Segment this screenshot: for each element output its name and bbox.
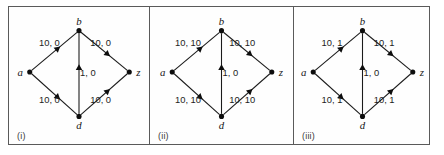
flow-network-figure: 10, 010, 010, 010, 01, 0abzd (i) 10, 101…: [0, 0, 444, 155]
panel-iii-caption: (iii): [302, 131, 315, 141]
node-dot: [170, 69, 175, 74]
edge-label-d-z: 10, 1: [374, 95, 395, 105]
node-d: d: [219, 114, 225, 131]
panel-ii: 10, 1010, 1010, 1010, 101, 0abzd (ii): [149, 7, 293, 144]
node-label-d: d: [360, 119, 366, 131]
edge-label-a-b: 10, 10: [175, 38, 201, 48]
node-dot: [360, 114, 365, 119]
node-a: a: [301, 66, 316, 78]
node-b: b: [219, 15, 225, 33]
node-dot: [410, 69, 415, 74]
edge-label-d-b: 1, 0: [80, 68, 96, 78]
node-b: b: [360, 15, 366, 33]
node-label-a: a: [17, 66, 22, 78]
node-label-z: z: [419, 66, 425, 78]
node-dot: [311, 69, 316, 74]
node-a: a: [17, 66, 32, 78]
edge-label-b-z: 10, 10: [229, 38, 255, 48]
node-label-d: d: [219, 119, 225, 131]
node-label-a: a: [160, 66, 165, 78]
panel-iii-graph: 10, 110, 110, 110, 11, 0abzd: [294, 7, 431, 144]
edge-label-d-z: 10, 10: [229, 95, 255, 105]
edge-label-d-z: 10, 0: [90, 95, 111, 105]
panel-iii: 10, 110, 110, 110, 11, 0abzd (iii): [293, 7, 431, 144]
panel-i: 10, 010, 010, 010, 01, 0abzd (i): [9, 7, 149, 144]
node-label-a: a: [301, 66, 306, 78]
node-z: z: [410, 66, 424, 78]
edge-label-a-d: 10, 1: [322, 95, 343, 105]
node-dot: [219, 114, 224, 119]
node-d: d: [76, 114, 82, 131]
edge-label-a-d: 10, 10: [175, 95, 201, 105]
node-label-z: z: [135, 66, 141, 78]
node-label-b: b: [76, 15, 82, 27]
node-label-b: b: [219, 15, 225, 27]
node-z: z: [269, 66, 283, 78]
node-dot: [127, 69, 132, 74]
node-dot: [76, 114, 81, 119]
node-dot: [27, 69, 32, 74]
panel-i-graph: 10, 010, 010, 010, 01, 0abzd: [9, 7, 149, 144]
figure-frame: 10, 010, 010, 010, 01, 0abzd (i) 10, 101…: [8, 6, 430, 145]
node-label-d: d: [76, 119, 82, 131]
edge-label-d-b: 1, 0: [223, 68, 239, 78]
edge-label-b-z: 10, 1: [374, 38, 395, 48]
node-b: b: [76, 15, 82, 33]
panel-ii-caption: (ii): [158, 131, 169, 141]
node-dot: [219, 28, 224, 33]
edge-label-b-z: 10, 0: [90, 38, 111, 48]
node-dot: [76, 28, 81, 33]
panel-i-caption: (i): [17, 131, 26, 141]
edge-label-a-b: 10, 1: [322, 38, 343, 48]
node-dot: [269, 69, 274, 74]
node-z: z: [127, 66, 141, 78]
edge-label-a-b: 10, 0: [39, 38, 60, 48]
edge-label-a-d: 10, 0: [39, 95, 60, 105]
node-label-z: z: [278, 66, 284, 78]
edge-label-d-b: 1, 0: [364, 68, 380, 78]
node-a: a: [160, 66, 175, 78]
panel-ii-graph: 10, 1010, 1010, 1010, 101, 0abzd: [150, 7, 293, 144]
node-label-b: b: [360, 15, 366, 27]
node-d: d: [360, 114, 366, 131]
node-dot: [360, 28, 365, 33]
